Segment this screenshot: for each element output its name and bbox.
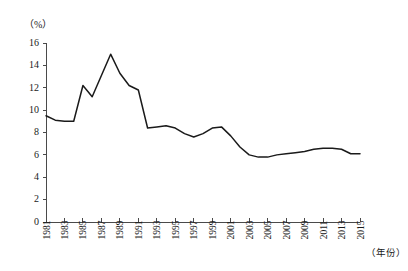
y-tick-label: 14 [29,59,39,70]
line-chart: （%） 0246810121416 1981198319851987198919… [0,0,408,271]
x-axis-ticks [46,218,360,222]
y-axis-unit-label: （%） [24,19,52,30]
y-tick-label: 12 [29,82,39,93]
y-axis-tick-labels: 0246810121416 [29,37,39,227]
y-tick-label: 8 [34,126,39,137]
x-tick-label: 2015 [356,220,366,239]
x-tick-label: 2003 [245,220,255,239]
data-series-line [46,54,360,157]
x-tick-label: 1995 [171,220,181,239]
x-tick-label: 2007 [282,220,292,239]
x-tick-label: 1997 [189,220,199,239]
x-tick-label: 1999 [208,220,218,239]
x-tick-label: 1983 [60,220,70,239]
y-tick-label: 10 [29,104,39,115]
x-tick-label: 1981 [42,220,52,239]
x-axis-title: （年份） [366,247,406,258]
y-axis-unit-group: （%） [24,19,52,30]
y-tick-label: 2 [34,193,39,204]
x-tick-label: 2009 [300,220,310,239]
x-tick-label: 1989 [115,220,125,239]
y-tick-label: 0 [34,216,39,227]
x-tick-label: 1987 [97,220,107,239]
y-tick-label: 16 [29,37,39,48]
x-tick-label: 2005 [263,220,273,239]
x-tick-label: 1985 [78,220,88,239]
x-axis-tick-labels: 1981198319851987198919911993199519971999… [42,220,366,239]
x-tick-label: 2013 [337,220,347,239]
x-tick-label: 1991 [134,220,144,239]
x-tick-label: 1993 [152,220,162,239]
y-tick-label: 6 [34,149,39,160]
y-tick-label: 4 [34,171,39,182]
x-tick-label: 2011 [319,220,329,239]
x-tick-label: 2001 [226,220,236,239]
chart-canvas: （%） 0246810121416 1981198319851987198919… [0,0,408,271]
